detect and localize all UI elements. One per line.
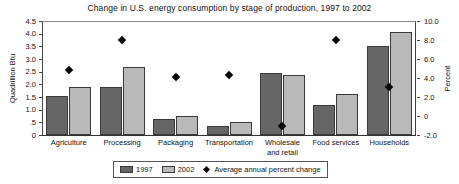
category-label: Households xyxy=(360,138,419,148)
bar-1997 xyxy=(367,46,389,135)
legend-label: 1997 xyxy=(136,165,153,174)
y2-tick-mark xyxy=(417,116,420,117)
chart-legend: 19972002Average annual percent change xyxy=(113,161,328,178)
bar-2002 xyxy=(176,116,198,135)
y2-tick-mark xyxy=(417,78,420,79)
legend-label: 2002 xyxy=(178,165,195,174)
bar-1997 xyxy=(207,126,229,135)
bar-2002 xyxy=(283,75,305,135)
y2-tick-label: 4.0 xyxy=(424,74,450,83)
category-label: Agriculture xyxy=(39,138,98,148)
bar-2002 xyxy=(230,122,252,135)
y-tick-label: .5 xyxy=(12,118,36,127)
bar-2002 xyxy=(336,94,358,135)
category-label: Transportation xyxy=(199,138,258,148)
bar-1997 xyxy=(100,87,122,135)
bar-1997 xyxy=(313,105,335,135)
y-tick-label: 2.5 xyxy=(12,67,36,76)
x-axis-line xyxy=(42,135,416,136)
legend-item: Average annual percent change xyxy=(203,165,320,174)
y2-tick-mark xyxy=(417,97,420,98)
y2-tick-label: 10.0 xyxy=(424,17,450,26)
y2-tick-label: -2.0 xyxy=(424,131,450,140)
y-tick-label: 3.5 xyxy=(12,42,36,51)
legend-swatch xyxy=(162,166,175,173)
category-label: Packaging xyxy=(146,138,205,148)
y-tick-label: 0 xyxy=(12,131,36,140)
legend-diamond-icon xyxy=(203,166,210,173)
y2-tick-mark xyxy=(417,59,420,60)
bar-1997 xyxy=(46,96,68,135)
y2-tick-mark xyxy=(417,21,420,22)
y2-tick-mark xyxy=(417,40,420,41)
y2-tick-label: 0 xyxy=(424,112,450,121)
bar-2002 xyxy=(390,32,412,135)
bar-1997 xyxy=(153,119,175,135)
category-label: Food services xyxy=(306,138,365,148)
bar-2002 xyxy=(69,87,91,135)
category-label: Processing xyxy=(92,138,151,148)
legend-swatch xyxy=(120,166,133,173)
legend-item: 2002 xyxy=(162,165,195,174)
y-tick-label: 2.0 xyxy=(12,80,36,89)
chart-title: Change in U.S. energy consumption by sta… xyxy=(0,3,459,13)
y2-tick-label: 8.0 xyxy=(424,36,450,45)
y-tick-label: 3.0 xyxy=(12,55,36,64)
legend-label: Average annual percent change xyxy=(214,165,320,174)
y-tick-label: 1.0 xyxy=(12,105,36,114)
y-tick-label: 4.0 xyxy=(12,29,36,38)
bar-2002 xyxy=(123,67,145,135)
y2-tick-label: 2.0 xyxy=(424,93,450,102)
legend-item: 1997 xyxy=(120,165,153,174)
y-tick-label: 4.5 xyxy=(12,17,36,26)
chart-figure: Change in U.S. energy consumption by sta… xyxy=(0,0,459,184)
y-tick-mark xyxy=(39,135,42,136)
y-tick-label: 1.5 xyxy=(12,93,36,102)
y2-tick-mark xyxy=(417,135,420,136)
y2-tick-label: 6.0 xyxy=(424,55,450,64)
category-label: Wholesaleand retail xyxy=(253,138,312,157)
